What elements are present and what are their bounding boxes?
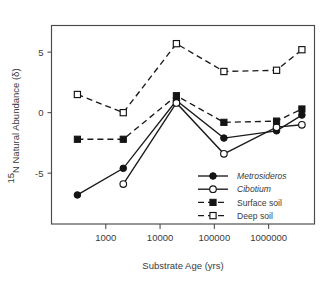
x-axis-ticks — [106, 224, 269, 229]
legend-label: Deep soil — [237, 211, 273, 221]
y-axis-superscript: 15 — [5, 173, 16, 184]
nitrogen-abundance-line-chart: 50-5 1000100001000001000000 15N Natural … — [0, 0, 330, 282]
data-point-open-circle — [210, 186, 217, 193]
legend-item-deep-soil: Deep soil — [198, 211, 273, 221]
x-axis-tick-labels: 1000100001000001000000 — [95, 232, 287, 243]
data-point-open-circle — [273, 124, 280, 131]
chart-figure: 50-5 1000100001000001000000 15N Natural … — [0, 0, 330, 282]
data-point-open-circle — [173, 100, 180, 107]
y-axis-tick-labels: 50-5 — [35, 47, 43, 179]
data-point-open-circle — [299, 121, 306, 128]
legend-label: Cibotium — [237, 184, 271, 194]
legend-label: Surface soil — [237, 198, 282, 208]
y-tick-label: -5 — [35, 168, 43, 179]
data-point-filled-circle — [221, 135, 228, 142]
legend-item-metrosideros: Metrosideros — [198, 171, 287, 181]
data-point-open-square — [210, 213, 216, 219]
data-point-open-square — [74, 91, 80, 97]
legend-item-surface-soil: Surface soil — [198, 198, 282, 208]
x-tick-label: 10000 — [147, 232, 173, 243]
data-point-filled-square — [221, 119, 227, 125]
data-point-filled-square — [299, 106, 305, 112]
y-axis-title-rest: N Natural Abundance (δ) — [10, 68, 21, 173]
y-tick-label: 0 — [38, 107, 43, 118]
legend-label: Metrosideros — [237, 171, 287, 181]
data-point-open-square — [173, 41, 179, 47]
data-point-filled-circle — [120, 165, 127, 172]
data-point-filled-square — [210, 199, 216, 205]
data-point-open-square — [299, 47, 305, 53]
y-axis-ticks — [48, 52, 52, 173]
y-tick-label: 5 — [38, 47, 43, 58]
data-point-filled-square — [173, 93, 179, 99]
data-point-open-square — [120, 110, 126, 116]
data-point-filled-circle — [210, 173, 217, 180]
data-point-filled-square — [120, 136, 126, 142]
data-point-open-circle — [221, 150, 228, 157]
data-point-filled-square — [74, 136, 80, 142]
y-axis-title: 15N Natural Abundance (δ) — [5, 68, 22, 183]
data-point-open-square — [221, 68, 227, 74]
series-line-deep-soil — [77, 44, 301, 113]
data-point-open-circle — [120, 181, 127, 188]
x-axis-title: Substrate Age (yrs) — [142, 260, 223, 271]
legend-item-cibotium: Cibotium — [198, 184, 271, 194]
data-point-open-square — [273, 67, 279, 73]
data-point-filled-circle — [299, 112, 306, 119]
y-axis-title-text: 15N Natural Abundance (δ) — [5, 68, 22, 183]
data-point-filled-square — [273, 118, 279, 124]
x-tick-label: 100000 — [198, 232, 230, 243]
legend: MetrosiderosCibotiumSurface soilDeep soi… — [198, 171, 287, 221]
data-point-filled-circle — [74, 192, 81, 199]
x-tick-label: 1000000 — [250, 232, 287, 243]
series-points-metrosideros — [74, 97, 305, 198]
x-tick-label: 1000 — [95, 232, 116, 243]
